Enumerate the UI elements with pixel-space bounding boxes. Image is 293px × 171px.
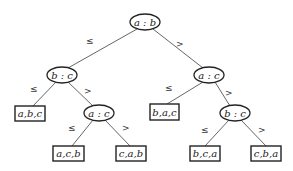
node-label: b : c [51, 70, 73, 81]
node-left-right: a : c [84, 105, 114, 121]
edge-label-root-left: ≤ [86, 36, 94, 46]
leaf-label: c,b,a [254, 148, 278, 159]
edge-label-left-leftright: > [84, 86, 92, 96]
leaf-bac: b,a,c [150, 104, 179, 120]
edge-label-right-bac: ≤ [165, 83, 173, 93]
leaf-label: a,b,c [18, 108, 43, 119]
leaf-acb: a,c,b [53, 146, 84, 161]
edge-root-left [68, 29, 137, 68]
edge-rightright-bca [205, 120, 229, 146]
leaf-bca: b,c,a [190, 146, 220, 161]
decision-tree-diagram: ≤ > ≤ > ≤ > ≤ > ≤ > a : b b : c a : c a … [0, 0, 293, 171]
node-left: b : c [47, 67, 77, 83]
edge-label-leftright-acb: ≤ [68, 123, 76, 133]
node-label: b : c [224, 108, 246, 119]
node-label: a : b [134, 17, 156, 28]
edge-label-left-abc: ≤ [30, 84, 38, 94]
node-label: a : c [88, 108, 110, 119]
node-right: a : c [194, 67, 224, 83]
node-label: a : c [198, 70, 220, 81]
edge-label-leftright-cab: > [122, 123, 130, 133]
leaf-cab: c,a,b [116, 146, 146, 161]
leaf-label: b,a,c [152, 107, 177, 118]
leaf-label: c,a,b [119, 148, 143, 159]
leaf-label: b,c,a [193, 148, 217, 159]
edge-label-rightright-bca: ≤ [201, 125, 209, 135]
node-root: a : b [130, 14, 160, 30]
node-right-right: b : c [220, 105, 250, 121]
edge-label-right-rightright: > [225, 88, 233, 98]
leaf-label: a,c,b [56, 148, 80, 159]
leaf-abc: a,b,c [15, 106, 45, 121]
edge-label-rightright-cba: > [258, 125, 266, 135]
leaf-cba: c,b,a [251, 146, 281, 161]
edge-label-root-right: > [176, 39, 184, 49]
